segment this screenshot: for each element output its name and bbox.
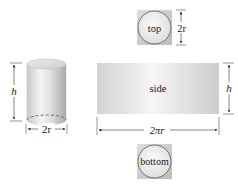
bottom-piece: bottom bbox=[137, 144, 172, 179]
cylinder: h 2r bbox=[9, 59, 67, 135]
side-height-label: h bbox=[226, 82, 232, 94]
cylinder-height-label: h bbox=[11, 85, 17, 97]
cylinder-top-cap bbox=[27, 59, 66, 69]
top-piece: top 2r bbox=[137, 10, 189, 45]
side-label: side bbox=[150, 83, 167, 94]
cylinder-diameter-label: 2r bbox=[42, 123, 52, 135]
side-piece: side h 2πr bbox=[97, 63, 234, 136]
bottom-label: bottom bbox=[140, 156, 169, 167]
top-dimension-label: 2r bbox=[177, 23, 186, 34]
side-width-label: 2πr bbox=[150, 125, 166, 136]
top-label: top bbox=[148, 23, 161, 34]
cylinder-body bbox=[27, 64, 66, 125]
cylinder-surface-area-diagram: h 2r top 2r side h 2πr bottom bbox=[0, 0, 238, 191]
